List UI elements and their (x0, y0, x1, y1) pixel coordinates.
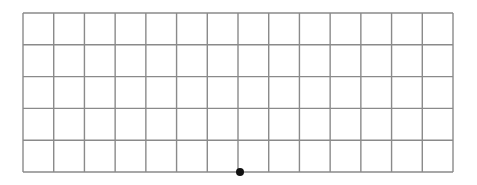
grid-diagram (0, 0, 477, 185)
grid-point (236, 168, 244, 176)
